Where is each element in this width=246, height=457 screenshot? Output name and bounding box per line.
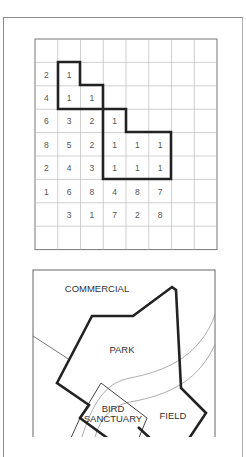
grid-cell-value: 1: [112, 140, 117, 150]
grid-cell-value: 8: [135, 187, 140, 197]
grid-cell-value: 1: [90, 210, 95, 220]
grid-cell-value: 2: [90, 140, 95, 150]
grid-cell-value: 1: [90, 93, 95, 103]
grid-cell-value: 2: [90, 116, 95, 126]
grid-cell-value: 1: [67, 93, 72, 103]
label-field: FIELD: [160, 410, 187, 421]
grid-cell-value: 8: [90, 187, 95, 197]
grid-cell-value: 4: [112, 187, 117, 197]
grid-cell-value: 8: [158, 210, 163, 220]
grid-cell-value: 1: [112, 116, 117, 126]
grid-cell-value: 3: [67, 116, 72, 126]
grid-cell-value: 6: [44, 116, 49, 126]
grid-cell-value: 1: [67, 70, 72, 80]
grid-cell-value: 1: [44, 187, 49, 197]
grid-cell-value: 2: [135, 210, 140, 220]
grid-cell-value: 1: [158, 140, 163, 150]
grid-cell-value: 1: [112, 163, 117, 173]
label-sanctuary: SANCTUARY: [84, 413, 143, 424]
label-commercial: COMMERCIAL: [65, 283, 129, 294]
cost-grid: 21411632185211124311116848731728: [35, 39, 217, 250]
grid-cell-value: 1: [135, 140, 140, 150]
land-use-map: COMMERCIAL PARK BIRD SANCTUARY FIELD: [33, 270, 216, 437]
road-line: [33, 336, 70, 360]
grid-cell-value: 1: [135, 163, 140, 173]
grid-cell-value: 8: [44, 140, 49, 150]
grid-cell-value: 4: [44, 93, 49, 103]
grid-cell-value: 3: [67, 210, 72, 220]
grid-cell-value: 2: [44, 70, 49, 80]
grid-cell-value: 7: [112, 210, 117, 220]
grid-cell-value: 6: [67, 187, 72, 197]
grid-cell-value: 3: [90, 163, 95, 173]
label-park: PARK: [109, 344, 135, 355]
grid-cell-value: 4: [67, 163, 72, 173]
grid-cell-value: 5: [67, 140, 72, 150]
grid-cell-value: 7: [158, 187, 163, 197]
grid-cell-value: 2: [44, 163, 49, 173]
grid-cell-value: 1: [158, 163, 163, 173]
